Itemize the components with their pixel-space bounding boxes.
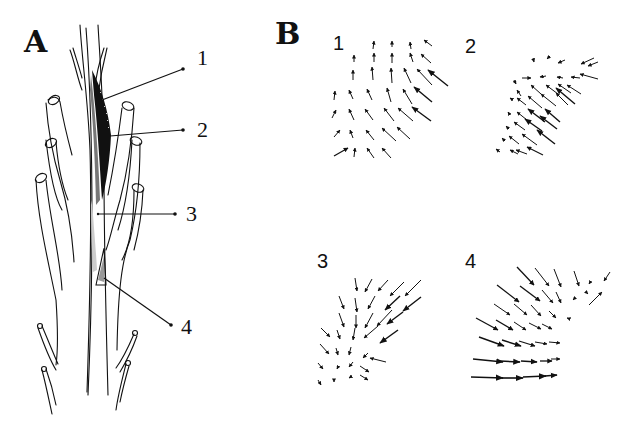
vector-arrow [574, 271, 579, 286]
leader-line-4 [104, 278, 171, 325]
vector-arrow [380, 330, 398, 343]
vector-arrow [318, 380, 321, 385]
vector-arrow [405, 280, 421, 296]
vector-arrow [522, 134, 537, 145]
label-1: 1 [197, 45, 208, 70]
vector-arrow [365, 279, 372, 292]
vector-arrow [496, 149, 500, 152]
vector-arrow [414, 87, 432, 102]
vector-arrow [377, 310, 392, 326]
vector-arrow [546, 85, 558, 94]
vector-arrow [519, 341, 535, 346]
vector-arrow [556, 292, 561, 303]
vector-arrow [541, 94, 556, 106]
vector-arrow [339, 313, 344, 327]
vector-arrow [520, 286, 540, 301]
vector-arrow [479, 337, 504, 346]
vector-arrow [545, 109, 560, 122]
vector-arrow [332, 110, 336, 118]
vector-arrow [370, 358, 386, 362]
vector-arrow [365, 109, 373, 120]
vector-arrow [349, 109, 354, 120]
vector-arrow [542, 324, 552, 329]
vector-arrow [476, 318, 498, 330]
vector-arrow [390, 282, 404, 296]
vector-arrow [364, 326, 378, 338]
leader-dot-4 [169, 323, 173, 327]
vector-arrow [403, 297, 421, 311]
vector-arrow [337, 367, 338, 369]
vector-arrow [529, 323, 541, 329]
vector-arrow [554, 269, 561, 287]
right-leaf-1 [108, 108, 122, 195]
vector-arrow [354, 148, 355, 157]
leader-dot-3 [173, 212, 177, 216]
vector-arrow [496, 320, 513, 330]
vector-arrow [334, 91, 335, 100]
figure-canvas: A [0, 0, 627, 428]
vector-arrow [403, 89, 412, 104]
vector-arrow [367, 148, 374, 158]
vector-arrow [318, 363, 323, 369]
vector-arrow [580, 74, 598, 79]
panel-b: B 1 2 3 4 [275, 16, 610, 385]
vector-arrow [471, 377, 503, 378]
vector-arrow [385, 296, 400, 310]
vector-arrow [604, 272, 610, 281]
vector-arrow [360, 375, 368, 380]
vector-arrow [567, 85, 581, 94]
label-3: 3 [186, 201, 197, 226]
vector-arrow [514, 80, 516, 84]
vector-arrow [412, 107, 431, 121]
vector-arrow [497, 285, 519, 302]
vector-arrow [510, 98, 513, 100]
vector-arrow [355, 278, 357, 291]
vector-arrow [500, 361, 520, 362]
vector-arrow [473, 359, 503, 362]
vector-arrow [573, 298, 575, 300]
bottom-leaf-left-1 [38, 328, 56, 370]
vector-arrow [514, 304, 527, 315]
bottom-leaf-right-1-tip [133, 331, 138, 336]
field-3-label: 3 [317, 250, 328, 272]
leader-line-1 [102, 69, 183, 100]
right-leaf-3 [122, 190, 134, 260]
vector-field-2 [496, 56, 598, 155]
leader-line-2 [110, 130, 183, 136]
vector-arrow [528, 96, 542, 108]
vector-arrow [523, 376, 546, 377]
vector-arrow [366, 130, 374, 140]
vector-arrow [549, 311, 556, 318]
vector-arrow [350, 130, 353, 138]
vector-arrow [336, 348, 338, 355]
vector-arrow [571, 77, 580, 78]
vector-arrow [494, 304, 510, 315]
vector-arrow [349, 347, 351, 355]
vector-arrow [533, 58, 534, 62]
vector-arrow [424, 40, 432, 46]
shoot-drawing [34, 25, 145, 414]
bottom-leaf-left-2b [46, 369, 56, 405]
vector-arrow [535, 342, 547, 344]
vector-arrow [556, 93, 568, 105]
vector-arrow [540, 76, 546, 77]
left-leaf-3-inner [46, 180, 62, 290]
vector-arrow [581, 58, 594, 64]
leader-dot-1 [181, 67, 185, 71]
vector-arrow [368, 296, 375, 309]
vector-arrow [404, 68, 411, 83]
vector-arrow [589, 292, 602, 305]
vector-arrow [506, 126, 509, 129]
vector-arrow [321, 328, 330, 337]
vector-arrow [363, 353, 368, 358]
vector-arrow [365, 313, 373, 328]
vector-arrow [514, 322, 526, 330]
vector-arrow [355, 298, 357, 312]
vector-arrow [537, 130, 555, 144]
bottom-leaf-right-2-tip [126, 361, 131, 366]
vector-arrow [549, 342, 560, 343]
vector-arrow [382, 148, 391, 158]
vector-arrow [517, 267, 534, 285]
vector-arrow [353, 328, 355, 340]
leader-origin-3 [97, 213, 99, 215]
